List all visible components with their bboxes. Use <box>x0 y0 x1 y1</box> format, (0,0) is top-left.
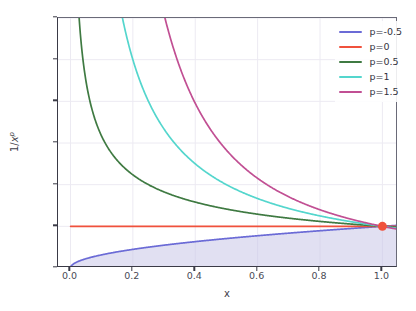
x-tick-mark <box>69 267 70 271</box>
x-tick-label: 0.6 <box>249 270 264 281</box>
marker-point <box>378 222 387 231</box>
legend-swatch-icon <box>339 76 362 78</box>
x-tick-label: 0.8 <box>311 270 326 281</box>
legend-item[interactable]: p=1 <box>339 70 402 83</box>
x-tick-mark <box>194 267 195 271</box>
x-tick-label: 0.4 <box>187 270 202 281</box>
legend-swatch-icon <box>339 91 362 93</box>
legend-item[interactable]: p=0 <box>339 40 402 53</box>
x-tick-mark <box>131 267 132 271</box>
x-tick-label: 0.0 <box>62 270 77 281</box>
legend-item[interactable]: p=-0.5 <box>339 25 402 38</box>
x-tick-mark <box>318 267 319 271</box>
chart-legend: p=-0.5p=0p=0.5p=1p=1.5 <box>335 21 408 102</box>
x-tick-label: 0.2 <box>124 270 139 281</box>
chart-figure: 0123456 0.00.20.40.60.81.0 1/xp x p=-0.5… <box>0 0 416 311</box>
legend-item[interactable]: p=0.5 <box>339 55 402 68</box>
x-tick-mark <box>256 267 257 271</box>
x-tick-mark <box>381 267 382 271</box>
y-axis-label-exponent: p <box>8 132 16 136</box>
legend-swatch-icon <box>339 31 362 33</box>
y-axis-label: 1/xp <box>8 132 20 152</box>
y-axis-label-base: 1/ <box>9 142 20 152</box>
legend-item[interactable]: p=1.5 <box>339 85 402 98</box>
legend-label: p=1.5 <box>369 85 398 98</box>
legend-swatch-icon <box>339 46 362 48</box>
shaded-region <box>70 225 397 267</box>
legend-label: p=0.5 <box>369 55 398 68</box>
legend-label: p=-0.5 <box>369 25 402 38</box>
y-axis-label-var: x <box>9 136 20 142</box>
legend-label: p=0 <box>369 40 389 53</box>
x-tick-label: 1.0 <box>374 270 389 281</box>
legend-label: p=1 <box>369 70 389 83</box>
legend-swatch-icon <box>339 61 362 63</box>
x-axis-label: x <box>224 288 230 299</box>
